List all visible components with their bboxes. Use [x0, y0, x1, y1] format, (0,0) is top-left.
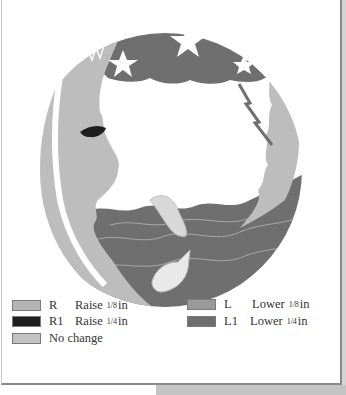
legend-item-no-change: No change — [12, 331, 103, 346]
legend-item-r1: R1 Raise 1/4 in — [12, 314, 128, 329]
legend-item-l: L Lower 1/8 in — [187, 297, 310, 312]
legend-swatch — [187, 316, 216, 327]
legend-fraction: 1/8 — [107, 301, 117, 310]
legend-action: Raise — [75, 314, 103, 329]
legend-action: Lower — [250, 314, 283, 329]
legend-action: No change — [49, 331, 103, 346]
legend-fraction: 1/4 — [287, 317, 297, 326]
legend-fraction: 1/4 — [107, 317, 117, 326]
legend-item-l1: L1 Lower 1/4 in — [187, 314, 308, 329]
legend-action: Lower — [252, 297, 285, 312]
legend-code: L — [224, 297, 244, 312]
legend-unit: in — [118, 298, 128, 313]
legend-item-r: R Raise 1/8 in — [12, 298, 128, 313]
legend-swatch — [12, 316, 41, 327]
sky — [95, 10, 300, 84]
legend-fraction: 1/8 — [289, 300, 299, 309]
legend-code: R — [49, 298, 69, 313]
legend-action: Raise — [75, 298, 103, 313]
legend-unit: in — [298, 314, 308, 329]
legend-swatch — [12, 300, 41, 311]
legend-code: L1 — [224, 314, 244, 329]
legend-unit: in — [118, 314, 128, 329]
legend-swatch — [12, 333, 41, 344]
legend-unit: in — [300, 297, 310, 312]
legend-swatch — [187, 299, 216, 310]
legend-code: R1 — [49, 314, 69, 329]
